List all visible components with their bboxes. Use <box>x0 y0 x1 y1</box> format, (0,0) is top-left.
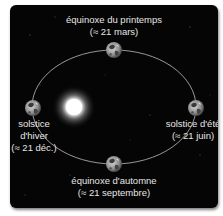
earth-icon <box>106 156 122 172</box>
summer-solstice-name: solstice d'été <box>160 118 218 130</box>
spring-equinox-name: équinoxe du printemps <box>54 14 174 26</box>
earth-icon <box>106 42 122 58</box>
summer-solstice-date: (≈ 21 juin) <box>160 130 218 142</box>
summer-solstice-label: solstice d'été (≈ 21 juin) <box>160 118 218 142</box>
spring-equinox-date: (≈ 21 mars) <box>54 26 174 38</box>
winter-solstice-label: solstice d'hiver (≈ 21 déc.) <box>10 118 60 154</box>
winter-solstice-name: solstice <box>10 118 60 130</box>
diagram-panel: équinoxe du printemps (≈ 21 mars) solsti… <box>10 5 218 208</box>
winter-solstice-name-2: d'hiver <box>10 130 60 142</box>
winter-solstice-date: (≈ 21 déc.) <box>10 142 60 154</box>
spring-equinox-label: équinoxe du printemps (≈ 21 mars) <box>54 14 174 38</box>
autumn-equinox-name: équinoxe d'automne <box>54 175 174 187</box>
earth-icon <box>188 100 204 116</box>
earth-icon <box>25 100 41 116</box>
autumn-equinox-label: équinoxe d'automne (≈ 21 septembre) <box>54 175 174 199</box>
autumn-equinox-date: (≈ 21 septembre) <box>54 187 174 199</box>
